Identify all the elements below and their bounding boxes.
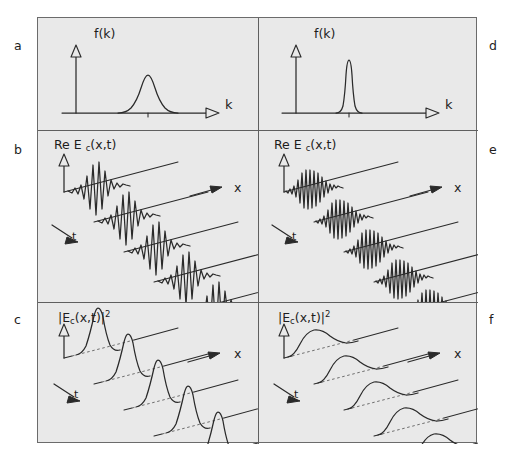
- panel-c-trace-5: [184, 412, 258, 444]
- panel-b-trace-1: [64, 162, 178, 215]
- panel-b-t-direction-line: [52, 225, 72, 238]
- panel-f-t-direction-line: [274, 384, 294, 397]
- panel-b-x-arrowhead: [210, 186, 222, 193]
- panel-d-y-arrowhead: [291, 45, 301, 57]
- panel-e-x-arrowhead: [430, 186, 442, 193]
- panel-a-gaussian-curve: [118, 75, 178, 113]
- panel-e-plot: [258, 130, 478, 302]
- panel-d-x-arrowhead: [426, 108, 439, 118]
- panel-label-a: a: [14, 38, 22, 53]
- panel-c-y-arrowhead: [59, 324, 69, 336]
- panel-label-c: c: [14, 312, 21, 327]
- panel-b-trace-2: [94, 192, 208, 245]
- panel-f-trace-2: [314, 354, 428, 384]
- panel-c-x-arrowhead: [208, 352, 220, 359]
- panel-a-x-arrowhead: [206, 108, 219, 118]
- panel-f-intensity-broad: |Ec(x,t)|2 x t: [258, 302, 478, 444]
- panel-label-f: f: [489, 312, 494, 327]
- panel-f-trace-3: [344, 380, 458, 410]
- panel-e-t-direction-line: [272, 225, 292, 238]
- panel-label-b: b: [14, 142, 22, 157]
- panel-d-gaussian-curve: [336, 60, 362, 113]
- panel-b-field-short-packet: Re E c(x,t) x t: [38, 130, 258, 302]
- panel-e-trace-3: [344, 222, 458, 269]
- panel-c-trace-2: [94, 334, 208, 384]
- figure-frame: f(k) k f(k) k Re E c(x,t) x t: [37, 17, 477, 443]
- panel-f-x-arrowhead: [428, 352, 440, 359]
- panel-c-trace-1: [64, 308, 178, 358]
- panel-b-y-arrowhead: [59, 154, 69, 166]
- panel-f-plot: [258, 302, 478, 444]
- panel-e-y-arrowhead: [279, 154, 289, 166]
- panel-e-field-long-packet: Re E c(x,t) x t: [258, 130, 478, 302]
- panel-f-y-arrowhead: [279, 324, 289, 336]
- panel-label-d: d: [489, 38, 497, 53]
- panel-b-trace-5: [184, 282, 258, 302]
- panel-f-trace-5: [404, 434, 478, 444]
- panel-c-trace-3: [124, 360, 238, 410]
- panel-e-trace-1: [284, 162, 398, 209]
- panel-b-plot: [38, 130, 258, 302]
- panel-b-trace-4: [154, 252, 258, 302]
- panel-d-plot: [258, 18, 478, 130]
- panel-f-trace-4: [374, 406, 478, 436]
- panel-f-trace-1: [284, 328, 398, 358]
- panel-c-plot: [38, 302, 258, 444]
- panel-a-plot: [38, 18, 258, 130]
- panel-e-trace-2: [314, 192, 428, 239]
- panel-e-trace-5: [404, 284, 478, 302]
- panel-c-t-direction-line: [54, 384, 74, 397]
- panel-b-trace-3: [124, 222, 238, 275]
- panel-a-y-arrowhead: [71, 45, 81, 57]
- panel-c-trace-4: [154, 386, 258, 436]
- panel-c-intensity-narrow: |Ec(x,t)|2 x t: [38, 302, 258, 444]
- panel-d-spectrum-narrow: f(k) k: [258, 18, 478, 130]
- panel-label-e: e: [489, 142, 497, 157]
- panel-a-spectrum-broad: f(k) k: [38, 18, 258, 130]
